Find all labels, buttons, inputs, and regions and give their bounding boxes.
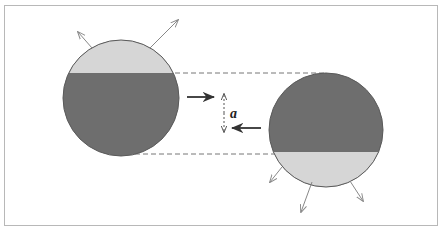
diagram-canvas: a — [0, 0, 442, 230]
separation-label: a — [230, 106, 237, 121]
